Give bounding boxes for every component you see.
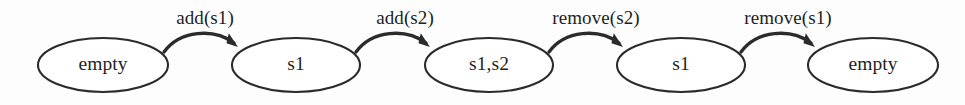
transition-add-s2[interactable]: add(s2) (356, 7, 434, 52)
transition-add-s1[interactable]: add(s1) (164, 7, 241, 52)
arrow-head-icon (800, 33, 818, 50)
arrow-head-icon (415, 33, 433, 50)
state-node-s1-second[interactable]: s1 (617, 38, 745, 92)
state-label: empty (78, 53, 127, 74)
state-node-s1-first[interactable]: s1 (232, 38, 360, 92)
transition-arc (549, 33, 619, 52)
state-label: s1 (287, 53, 305, 74)
transition-remove-s1[interactable]: remove(s1) (741, 7, 832, 52)
state-diagram: add(s1) add(s2) remove(s2) remove(s1) (0, 0, 965, 105)
state-node-empty-start[interactable]: empty (38, 38, 168, 92)
transition-label: add(s1) (176, 7, 234, 29)
state-diagram-canvas: add(s1) add(s2) remove(s2) remove(s1) (0, 0, 965, 105)
state-label: s1 (672, 53, 690, 74)
state-node-empty-end[interactable]: empty (808, 38, 938, 92)
transition-label: add(s2) (376, 7, 434, 29)
state-label: s1,s2 (469, 53, 509, 74)
transition-arc (741, 33, 811, 52)
state-node-s1s2[interactable]: s1,s2 (425, 38, 553, 92)
transition-label: remove(s1) (744, 7, 832, 29)
states-layer: empty s1 s1,s2 s1 empty (38, 38, 938, 92)
arrow-head-icon (608, 33, 626, 50)
transition-arc (356, 33, 426, 52)
state-label: empty (848, 53, 897, 74)
transition-remove-s2[interactable]: remove(s2) (549, 7, 640, 52)
transition-arc (164, 33, 234, 52)
transition-label: remove(s2) (552, 7, 640, 29)
arrow-head-icon (223, 33, 241, 50)
